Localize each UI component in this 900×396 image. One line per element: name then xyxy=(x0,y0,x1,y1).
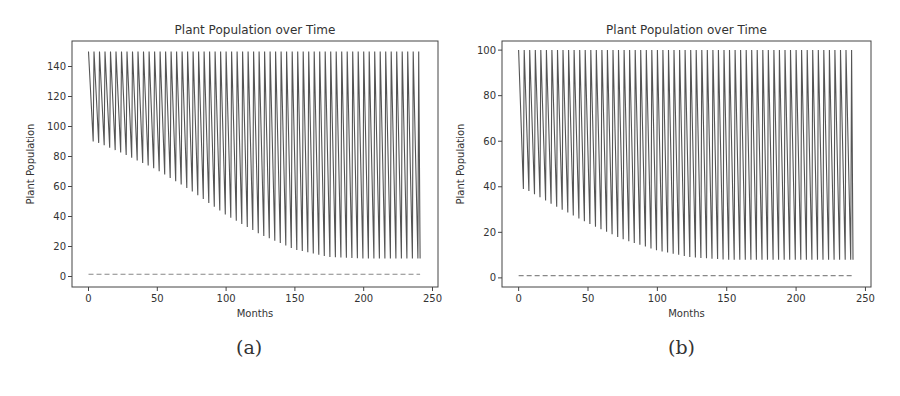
y-axis-label: Plant Population xyxy=(455,124,466,205)
x-tick-label: 100 xyxy=(648,293,667,304)
y-tick-label: 60 xyxy=(483,136,496,147)
x-tick-label: 250 xyxy=(856,293,875,304)
x-axis-label: Months xyxy=(668,308,705,319)
chart-panel-b: Plant Population over Time05010015020025… xyxy=(0,0,900,396)
y-tick-label: 0 xyxy=(490,272,496,283)
population-line xyxy=(519,50,853,260)
x-tick-label: 150 xyxy=(717,293,736,304)
y-tick-label: 100 xyxy=(477,45,496,56)
x-tick-label: 200 xyxy=(787,293,806,304)
caption-b: (b) xyxy=(668,336,695,358)
x-tick-label: 50 xyxy=(582,293,595,304)
y-tick-label: 40 xyxy=(483,181,496,192)
y-tick-label: 80 xyxy=(483,90,496,101)
y-tick-label: 20 xyxy=(483,227,496,238)
chart-b: Plant Population over Time05010015020025… xyxy=(0,0,900,396)
x-tick-label: 0 xyxy=(515,293,521,304)
chart-title: Plant Population over Time xyxy=(606,23,767,37)
